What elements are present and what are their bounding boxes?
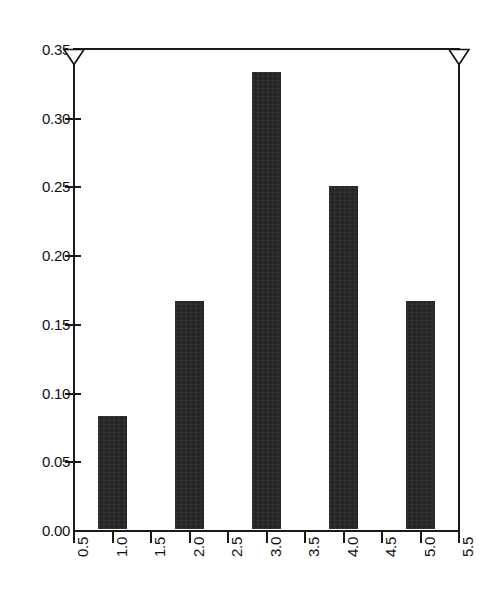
y-tick-label: 0.25 — [42, 178, 70, 195]
x-tick-label: 4.0 — [344, 537, 361, 557]
y-tick-label: 0.00 — [42, 522, 70, 539]
x-tick-label: 1.0 — [113, 537, 130, 557]
y-tick-label: 0.20 — [42, 247, 70, 264]
x-tick-label: 3.5 — [305, 537, 322, 557]
x-tick-label: 2.5 — [228, 537, 245, 557]
x-tick-label: 3.0 — [267, 537, 284, 557]
y-axis-line — [73, 48, 75, 532]
x-tick-label: 4.5 — [382, 537, 399, 557]
x-tick-label: 1.5 — [151, 537, 168, 557]
right-axis-line — [458, 48, 460, 532]
top-left-triangle-icon — [62, 48, 86, 66]
top-right-triangle-icon — [447, 48, 471, 66]
bar-2.0 — [175, 301, 204, 529]
bar-4.0 — [329, 186, 358, 529]
top-axis-line — [73, 48, 460, 50]
x-tick-label: 0.5 — [74, 537, 91, 557]
y-tick-label: 0.30 — [42, 109, 70, 126]
y-tick-label: 0.05 — [42, 453, 70, 470]
x-tick-label: 5.0 — [421, 537, 438, 557]
y-tick-label: 0.15 — [42, 315, 70, 332]
plot-area: 0.000.050.100.150.200.250.300.35 0.51.01… — [73, 48, 460, 531]
y-tick-label: 0.10 — [42, 384, 70, 401]
x-tick-label: 5.5 — [459, 537, 476, 557]
x-tick-label: 2.0 — [190, 537, 207, 557]
bar-3.0 — [252, 72, 281, 529]
bar-chart: 0.000.050.100.150.200.250.300.35 0.51.01… — [0, 0, 493, 595]
bar-5.0 — [406, 301, 435, 529]
bar-1.0 — [98, 416, 127, 529]
